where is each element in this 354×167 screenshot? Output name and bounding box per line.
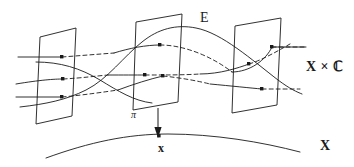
- base-space-label: X: [320, 139, 330, 153]
- projection-map-label: π: [131, 110, 136, 120]
- section-three-solid-b: [118, 76, 163, 90]
- section-four-solid: [20, 27, 302, 107]
- section-two-dashed-c: [249, 44, 290, 64]
- intersection-dot: [161, 74, 164, 77]
- intersection-dot: [270, 45, 273, 48]
- fiber-bundle-figure: E X × ℂ π x X: [0, 0, 354, 167]
- intersection-dot: [60, 55, 63, 58]
- ambient-space-label: X × ℂ: [306, 60, 344, 74]
- base-curve: [46, 134, 300, 158]
- section-two-solid-a: [16, 79, 63, 84]
- section-three-dashed-a: [62, 90, 118, 97]
- fiber-middle-plane: [133, 14, 182, 110]
- section-three-solid-c: [210, 84, 262, 89]
- intersection-dot: [143, 73, 146, 76]
- intersection-dot: [61, 77, 64, 80]
- intersection-dot: [158, 43, 161, 46]
- section-four: [20, 27, 302, 107]
- section-two-solid-c: [200, 64, 249, 74]
- base-point-dot: [157, 134, 160, 137]
- section-one-dashed-a: [62, 53, 114, 57]
- fiber-left-plane: [36, 28, 76, 124]
- fiber-group: [36, 14, 281, 124]
- total-space-label: E: [200, 11, 209, 25]
- figure-canvas: [0, 0, 354, 167]
- section-two-dashed-a: [63, 75, 108, 79]
- section-two-dashed-b: [145, 74, 200, 75]
- intersection-dot: [260, 87, 263, 90]
- fiber-right-plane: [232, 18, 281, 113]
- section-three-dashed-b: [163, 76, 210, 84]
- section-group: [16, 27, 306, 107]
- section-one-dashed-b: [160, 45, 232, 72]
- base-space-group: [46, 134, 300, 158]
- base-point-label: x: [158, 142, 164, 154]
- intersection-dot: [247, 62, 250, 65]
- projection-arrow: [154, 108, 161, 138]
- intersection-dot: [60, 95, 63, 98]
